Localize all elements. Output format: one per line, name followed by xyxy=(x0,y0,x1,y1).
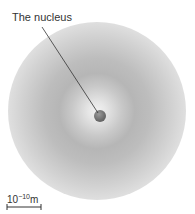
leader-line xyxy=(0,0,195,214)
scale-unit: m xyxy=(30,194,38,205)
scale-bar-label: 10−10m xyxy=(7,193,38,205)
nucleus-label: The nucleus xyxy=(12,11,72,23)
scale-exponent: −10 xyxy=(18,193,30,200)
scale-base: 10 xyxy=(7,194,18,205)
